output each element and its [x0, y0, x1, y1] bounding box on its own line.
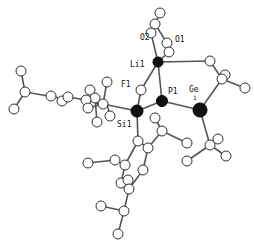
- label-si1: Si1: [117, 120, 132, 129]
- atom-p1: [157, 96, 168, 107]
- atom-ge1: [193, 103, 207, 117]
- label-ge: Ge: [189, 85, 199, 94]
- atom-li1: [153, 57, 163, 67]
- label-o2: O2: [140, 33, 150, 42]
- label-p1: P1: [168, 87, 178, 96]
- label-f1: F1: [121, 80, 131, 89]
- molecule-diagram: O2 O1 Li1 F1 P1 Ge 1 Si1: [0, 0, 254, 247]
- label-ge-sub: 1: [193, 94, 197, 101]
- atom-si1: [131, 105, 143, 117]
- label-o1: O1: [175, 35, 185, 44]
- label-li1: Li1: [130, 60, 145, 69]
